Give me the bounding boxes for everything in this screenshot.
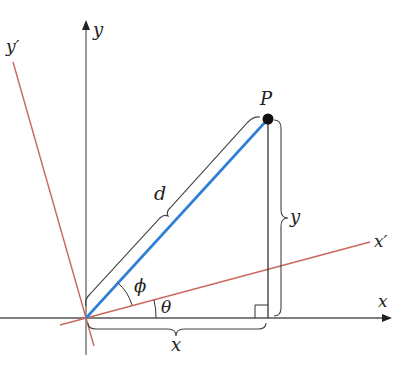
coordinate-rotation-diagram: y x y′ x′ P d ϕ θ x y <box>0 0 405 372</box>
y-axis-label: y <box>92 19 104 40</box>
x-axis-label: x <box>378 291 388 311</box>
distance-label: d <box>154 182 166 204</box>
point-label: P <box>259 88 273 109</box>
angle-theta-arc <box>154 300 156 318</box>
phi-label: ϕ <box>134 275 146 296</box>
x-prime-axis <box>60 242 370 325</box>
x-prime-label: x′ <box>374 231 388 251</box>
right-angle-marker <box>255 305 268 318</box>
segment-d <box>86 119 268 318</box>
y-length-label: y <box>289 206 301 227</box>
angle-phi-arc <box>118 283 132 305</box>
x-length-label: x <box>171 334 181 355</box>
y-prime-axis <box>13 62 94 346</box>
d-brace <box>86 117 261 306</box>
y-prime-label: y′ <box>5 36 20 56</box>
theta-label: θ <box>161 297 171 317</box>
y-brace <box>274 120 288 316</box>
point-p <box>263 114 274 125</box>
